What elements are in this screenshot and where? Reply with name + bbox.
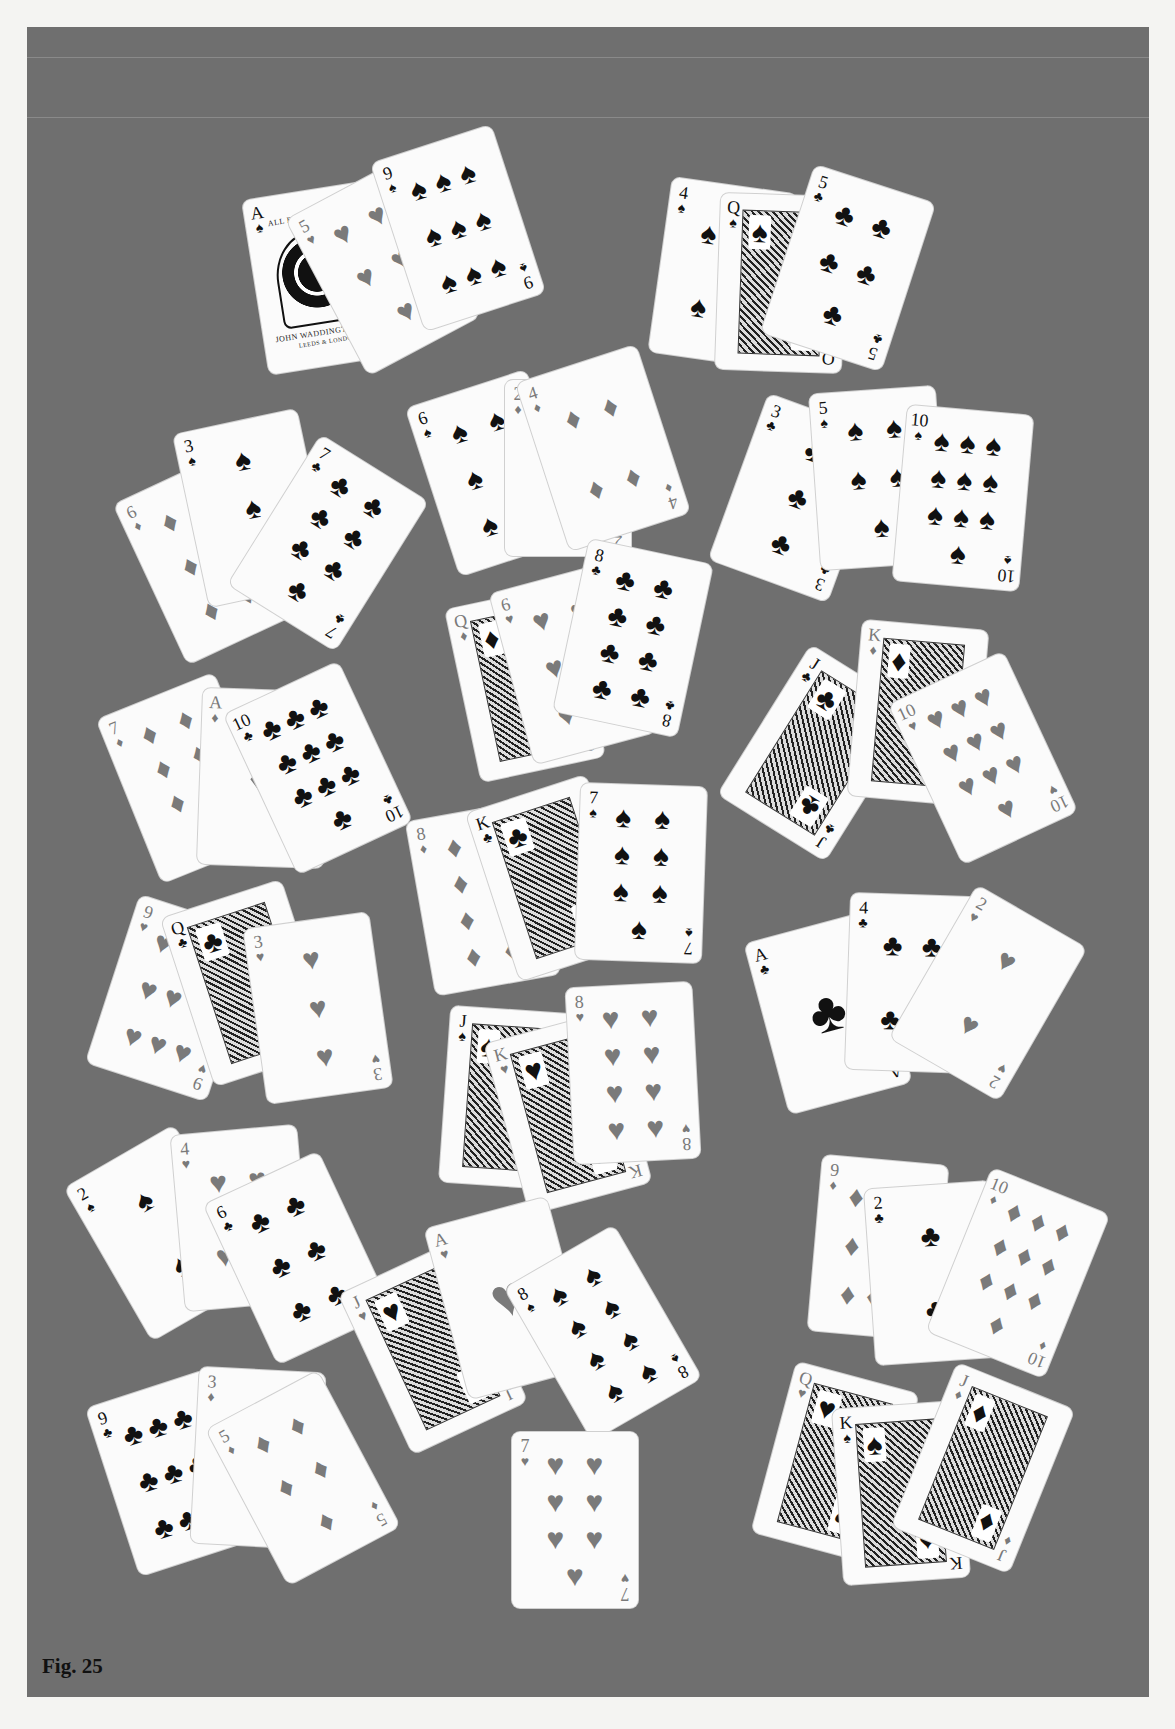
- diamonds-pip-icon: ♦: [445, 901, 489, 937]
- spades-pip-icon: ♠: [619, 913, 659, 944]
- spades-pip-icon: ♠: [976, 466, 1004, 498]
- card-index-tl: 5♠: [813, 399, 833, 431]
- card-pips: ♦♦♦♦: [543, 366, 663, 531]
- clubs-pip-icon: ♣: [580, 670, 624, 707]
- clubs-suit-icon: ♣: [854, 916, 872, 931]
- clubs-pip-icon: ♣: [323, 799, 359, 837]
- diamonds-pip-icon: ♦: [439, 865, 483, 901]
- card-index-tl: 9♦: [824, 1161, 845, 1193]
- hearts-pip-icon: ♥: [575, 1524, 614, 1554]
- clubs-suit-icon: ♣: [97, 1424, 118, 1443]
- card-pips: ♥♥♥: [269, 929, 367, 1086]
- card-index-tl: Q♠: [724, 199, 743, 231]
- clubs-pip-icon: ♣: [618, 678, 662, 715]
- card-index-tl: 4♦: [522, 383, 549, 418]
- card-index-tl: 7♠: [584, 789, 603, 821]
- diamonds-suit-icon: ♦: [887, 643, 911, 679]
- hearts-pip-icon: ♥: [635, 1111, 676, 1143]
- hearts-pip-icon: ♥: [596, 1113, 637, 1145]
- card-pips: ♠♠♠♠♠♠♠♠♠: [398, 146, 518, 311]
- card-index-tl: A♦: [206, 694, 225, 726]
- diamonds-suit-icon: ♦: [824, 1178, 843, 1194]
- diamonds-suit-icon: ♦: [970, 1503, 1002, 1543]
- clubs-suit-icon: ♣: [195, 922, 230, 962]
- diamonds-pip-icon: ♦: [610, 457, 656, 498]
- card-index-tl: 6♥: [495, 594, 520, 629]
- card-index-br: 7♥: [616, 1571, 634, 1602]
- figure-caption: Fig. 25: [42, 1654, 103, 1679]
- clubs-pip-icon: ♣: [739, 517, 823, 572]
- hearts-pip-icon: ♥: [284, 1037, 365, 1078]
- card-index-tl: 4♠: [672, 184, 694, 217]
- hearts-pip-icon: ♥: [633, 1074, 674, 1106]
- card-rank: 3: [372, 1064, 384, 1085]
- clubs-pip-icon: ♣: [634, 605, 678, 642]
- spades-pip-icon: ♠: [838, 463, 879, 496]
- spades-pip-icon: ♠: [641, 840, 681, 871]
- clubs-pip-icon: ♣: [890, 1218, 970, 1253]
- card-rank: 10: [997, 565, 1017, 586]
- spades-pip-icon: ♠: [201, 437, 284, 483]
- spades-pip-icon: ♠: [603, 801, 643, 832]
- hearts-suit-icon: ♥: [677, 1121, 696, 1136]
- plate-band-line: [27, 57, 1149, 58]
- hearts-pip-icon: ♥: [590, 1003, 631, 1035]
- spades-suit-icon: ♠: [680, 925, 698, 940]
- clubs-suit-icon: ♣: [870, 1211, 889, 1226]
- spades-pip-icon: ♠: [973, 503, 1001, 535]
- card-index-br: 4♦: [658, 478, 685, 513]
- card-pips: ♥♥♥♥♥♥♥♥: [590, 997, 676, 1149]
- spades-suit-icon: ♠: [672, 200, 692, 216]
- hearts-pip-icon: ♥: [277, 988, 358, 1029]
- plate-band-line: [27, 117, 1149, 118]
- card-rank: 8: [682, 1134, 692, 1154]
- hearts-pip-icon: ♥: [536, 1450, 575, 1480]
- hearts-suit-icon: ♥: [571, 1010, 590, 1025]
- spades-pip-icon: ♠: [835, 414, 876, 447]
- spades-suit-icon: ♠: [748, 215, 771, 250]
- spades-pip-icon: ♠: [944, 537, 972, 569]
- card-rank: 7: [521, 1436, 530, 1456]
- hearts-suit-icon: ♥: [177, 1157, 196, 1173]
- clubs-pip-icon: ♣: [588, 633, 632, 670]
- spades-pip-icon: ♠: [925, 461, 953, 493]
- card-pips: ♥♥♥♥♥♥♥: [536, 1446, 614, 1594]
- hearts-suit-icon: ♥: [366, 1050, 386, 1066]
- card-index-br: 10♠: [997, 552, 1018, 584]
- card-index-tl: 9♠: [377, 163, 404, 198]
- hearts-pip-icon: ♥: [988, 789, 1024, 827]
- hearts-suit-icon: ♥: [133, 918, 154, 937]
- diamonds-suit-icon: ♦: [206, 711, 224, 726]
- hearts-pip-icon: ♥: [631, 1038, 672, 1070]
- clubs-suit-icon: ♣: [760, 417, 782, 436]
- card-index-tl: 8♥: [570, 993, 590, 1025]
- hearts-pip-icon: ♥: [575, 1487, 614, 1517]
- card-index-tl: 9♣: [92, 1408, 119, 1443]
- diamonds-pip-icon: ♦: [432, 829, 476, 865]
- clubs-pip-icon: ♣: [596, 597, 640, 634]
- hearts-pip-icon: ♥: [629, 1001, 670, 1033]
- diamonds-pip-icon: ♦: [834, 1279, 862, 1311]
- card-pips: ♠♠♠♠♠♠♠♠♠♠: [918, 421, 1009, 575]
- playing-card-7-of-spades: 7♠7♠♠♠♠♠♠♠♠: [575, 783, 707, 963]
- clubs-pip-icon: ♣: [859, 207, 905, 248]
- card-index-tl: 3♥: [248, 933, 270, 966]
- card-index-tl: 3♦: [202, 1373, 222, 1405]
- clubs-suit-icon: ♣: [500, 817, 535, 857]
- spades-pip-icon: ♠: [947, 500, 975, 532]
- spades-pip-icon: ♠: [954, 427, 982, 459]
- spades-pip-icon: ♠: [601, 875, 641, 906]
- card-rank: 7: [684, 939, 694, 959]
- clubs-suit-icon: ♣: [754, 961, 775, 979]
- clubs-pip-icon: ♣: [603, 561, 647, 598]
- playing-card-3-of-hearts: 3♥3♥♥♥♥: [243, 912, 392, 1104]
- hearts-pip-icon: ♥: [965, 928, 1048, 993]
- card-index-tl: 8♦: [411, 824, 434, 858]
- card-rank: 7: [621, 1584, 630, 1604]
- spades-pip-icon: ♠: [921, 498, 949, 530]
- card-index-br: 3♥: [366, 1050, 388, 1083]
- diamonds-suit-icon: ♦: [414, 841, 434, 858]
- clubs-suit-icon: ♣: [790, 785, 830, 827]
- card-rank: K: [949, 1553, 963, 1574]
- card-pips: ♣♣♣♣♣: [788, 186, 908, 351]
